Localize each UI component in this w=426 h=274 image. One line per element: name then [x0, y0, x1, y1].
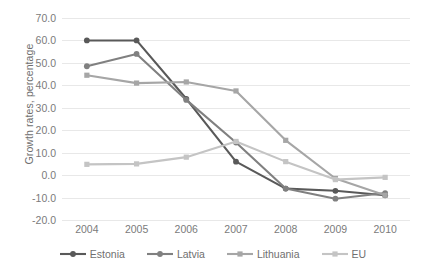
- data-point-marker: [383, 175, 388, 180]
- data-point-marker: [183, 97, 189, 103]
- data-point-marker: [233, 139, 238, 144]
- y-axis-tick-label: 30.0: [12, 102, 56, 114]
- data-point-marker: [233, 88, 238, 93]
- x-axis-tick-label: 2005: [114, 223, 160, 235]
- data-point-marker: [134, 80, 139, 85]
- y-axis-tick-label: 0.0: [12, 169, 56, 181]
- data-point-marker: [283, 159, 288, 164]
- legend-swatch-icon: [322, 249, 348, 259]
- x-axis-tick-label: 2004: [64, 223, 110, 235]
- data-point-marker: [84, 73, 89, 78]
- legend-swatch-icon: [227, 249, 253, 259]
- data-point-marker: [283, 186, 289, 192]
- legend-item-estonia[interactable]: Estonia: [60, 248, 125, 260]
- data-point-marker: [333, 177, 338, 182]
- x-axis-tick-label: 2007: [213, 223, 259, 235]
- data-point-marker: [84, 63, 90, 69]
- legend-label: Latvia: [177, 248, 205, 260]
- y-axis-tick-label: 70.0: [12, 12, 56, 24]
- y-axis-tick-label: -20.0: [12, 214, 56, 226]
- series-estonia: [84, 38, 388, 199]
- data-point-marker: [333, 188, 339, 194]
- y-axis-tick-label: 60.0: [12, 34, 56, 46]
- x-axis-tick-label: 2010: [362, 223, 408, 235]
- legend-label: Lithuania: [257, 248, 300, 260]
- data-point-marker: [233, 159, 239, 165]
- y-axis-tick-label: 40.0: [12, 79, 56, 91]
- gridline: [62, 220, 410, 221]
- series-line: [87, 54, 385, 199]
- data-point-marker: [283, 138, 288, 143]
- y-axis-tick-label: 50.0: [12, 57, 56, 69]
- data-point-marker: [184, 79, 189, 84]
- x-axis-tick-label: 2009: [312, 223, 358, 235]
- data-point-marker: [383, 193, 388, 198]
- data-point-marker: [84, 38, 90, 44]
- data-point-marker: [184, 155, 189, 160]
- series-line: [87, 40, 385, 195]
- legend: EstoniaLatviaLithuaniaEU: [0, 248, 426, 260]
- y-axis-tick-label: 20.0: [12, 124, 56, 136]
- legend-label: EU: [352, 248, 367, 260]
- legend-swatch-icon: [60, 249, 86, 259]
- data-point-marker: [333, 196, 339, 202]
- legend-swatch-icon: [147, 249, 173, 259]
- legend-item-eu[interactable]: EU: [322, 248, 367, 260]
- y-axis-tick-label: 10.0: [12, 147, 56, 159]
- data-point-marker: [134, 38, 140, 44]
- legend-label: Estonia: [90, 248, 125, 260]
- series-layer: [62, 18, 410, 220]
- line-chart: Growth rates, percentage 70.060.050.040.…: [0, 0, 426, 274]
- legend-item-latvia[interactable]: Latvia: [147, 248, 205, 260]
- data-point-marker: [84, 162, 89, 167]
- x-axis-tick-label: 2006: [163, 223, 209, 235]
- data-point-marker: [134, 161, 139, 166]
- y-axis-tick-label: -10.0: [12, 192, 56, 204]
- plot-area: 70.060.050.040.030.020.010.00.0-10.0-20.…: [62, 18, 410, 220]
- legend-item-lithuania[interactable]: Lithuania: [227, 248, 300, 260]
- x-axis-tick-label: 2008: [263, 223, 309, 235]
- data-point-marker: [134, 51, 140, 57]
